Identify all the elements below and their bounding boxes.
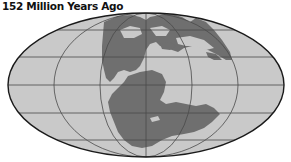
paleogeographic-world-map: [0, 0, 291, 162]
